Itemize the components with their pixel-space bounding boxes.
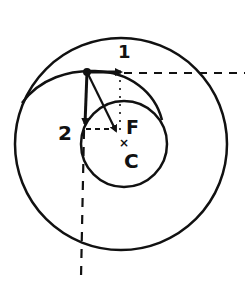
label-arrow-2: 2 (58, 123, 72, 143)
orbit-point (83, 68, 91, 76)
label-arrow-1: 1 (118, 43, 131, 61)
arrow-2 (85, 72, 87, 124)
orbit-arc (22, 71, 162, 120)
diagonal-arrow (87, 72, 116, 131)
label-focus-f: F (126, 118, 139, 137)
center-marker: × (119, 137, 129, 149)
label-center-c: C (124, 151, 139, 171)
